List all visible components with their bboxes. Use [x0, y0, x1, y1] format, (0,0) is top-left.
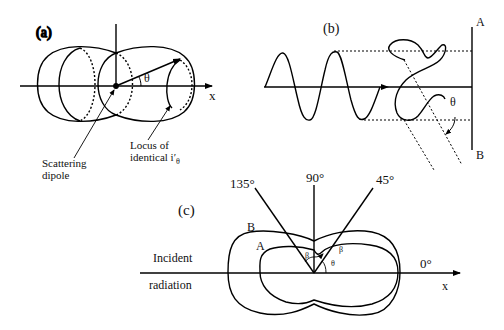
panel-a-theta-arc — [139, 77, 141, 86]
panel-a-locus-pointer — [148, 106, 170, 140]
panel-a-locus-ring-solid — [167, 60, 180, 108]
panel-b-screen-top-label: A — [476, 15, 485, 29]
panel-b-sine-wave — [265, 52, 380, 120]
panel-c-incident-label-1: Incident — [153, 251, 193, 265]
panel-a-label: (a) — [36, 25, 52, 41]
panel-a-locus-label-2: identical i′θ — [130, 151, 180, 166]
panel-c-curve-A — [260, 244, 398, 307]
panel-c-x-label: x — [442, 279, 448, 293]
panel-c-label: (c) — [178, 202, 195, 219]
panel-c-curve-B-label: B — [247, 220, 255, 234]
panel-a-left-lobe — [38, 47, 117, 122]
panel-a-dipole-label-1: Scattering — [42, 157, 87, 169]
scattering-diagram-figure: (a) x θ Scattering dipole Locus of ident… — [0, 0, 504, 330]
panel-a-dipole-point — [114, 84, 118, 88]
panel-a-left-section-solid — [59, 48, 80, 121]
panel-b-diagonal-2 — [404, 120, 434, 170]
panel-c-beta-left: β — [305, 251, 309, 260]
panel-c-beta-right: β — [339, 245, 343, 254]
panel-a-locus-ring-dashed — [180, 60, 192, 110]
panel-a-left-section-dashed — [80, 48, 95, 121]
panel-b-screen-bottom-label: B — [476, 148, 484, 162]
panel-c-incident-label-2: radiation — [149, 278, 192, 292]
panel-b-diagonal-1 — [404, 60, 462, 165]
panel-a-theta-label: θ — [144, 71, 150, 85]
panel-c-theta: θ — [331, 259, 335, 268]
panel-a-right-lobe — [116, 47, 195, 122]
panel-c-angle-90: 90° — [306, 170, 324, 185]
panel-b-coiled-particle — [389, 40, 446, 120]
panel-a-locus-label-1: Locus of — [130, 139, 169, 151]
panel-a: (a) — [20, 24, 212, 158]
panel-b-theta-label: θ — [450, 95, 456, 109]
panel-a-dipole-label-2: dipole — [42, 169, 70, 181]
panel-c-angle-135: 135° — [230, 176, 255, 191]
panel-b: (b) — [264, 21, 472, 170]
panel-a-middle-section-solid — [98, 53, 116, 115]
panel-c-angle-0: 0° — [420, 256, 432, 271]
panel-a-dipole-pointer — [74, 90, 114, 158]
panel-c-angle-45: 45° — [376, 172, 394, 187]
panel-c-curve-A-label: A — [256, 239, 265, 253]
panel-a-x-label: x — [209, 88, 216, 103]
panel-b-label: (b) — [323, 21, 340, 37]
panel-c-theta-arc — [322, 261, 326, 273]
panel-a-middle-section-dashed — [116, 53, 133, 115]
